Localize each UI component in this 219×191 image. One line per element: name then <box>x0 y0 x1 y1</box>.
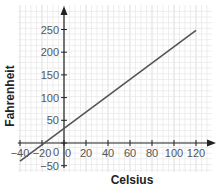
y-tick-label: 150 <box>41 69 59 81</box>
x-tick-label: 0 <box>65 147 71 159</box>
x-tick-label: 80 <box>146 147 158 159</box>
x-tick-label: 100 <box>165 147 183 159</box>
y-tick-label: 200 <box>41 46 59 58</box>
y-tick-label: 50 <box>47 114 59 126</box>
x-tick-label: 120 <box>187 147 205 159</box>
conversion-chart: −40−20020406080100120−50050100150200250 … <box>0 0 219 191</box>
x-tick-label: 40 <box>102 147 114 159</box>
y-tick-label: −50 <box>40 160 59 172</box>
x-axis-title: Celsius <box>111 173 154 187</box>
y-tick-label: 250 <box>41 24 59 36</box>
y-tick-label: 0 <box>53 146 59 158</box>
x-tick-label: 60 <box>124 147 136 159</box>
x-tick-label: 20 <box>80 147 92 159</box>
y-tick-label: 100 <box>41 92 59 104</box>
y-axis-title: Fahrenheit <box>3 65 17 126</box>
